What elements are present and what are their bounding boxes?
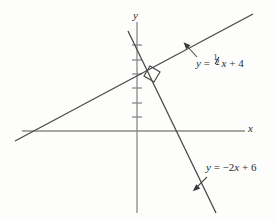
equation-2-coefficient: −2 [223, 161, 235, 173]
equation-2-equals: = [211, 161, 223, 173]
equation-1-equals: = [201, 57, 213, 69]
equation-1-fraction: 12 [213, 56, 222, 67]
equation-2-tail: + 6 [239, 161, 256, 173]
equation-label-line-1: y = 12x + 4 [196, 56, 244, 69]
line-graph-figure: y x y = 12x + 4 y = −2x + 6 [0, 0, 276, 221]
graph-canvas [0, 0, 276, 221]
line-half-x-plus-4 [15, 14, 253, 141]
equation-1-tail: + 4 [227, 57, 244, 69]
y-axis-label: y [133, 10, 138, 21]
equation-1-denominator: 2 [216, 59, 220, 67]
equation-label-line-2: y = −2x + 6 [206, 162, 256, 173]
x-axis-label: x [248, 123, 253, 134]
